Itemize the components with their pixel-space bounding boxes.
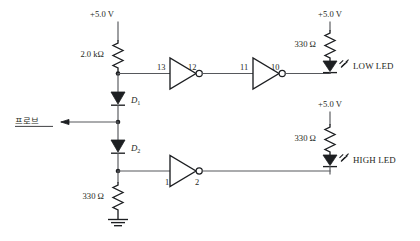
- diode-d1-label: D1: [130, 95, 140, 106]
- supply-label-top-left: +5.0 V: [90, 9, 115, 19]
- inverter-2-bubble-icon: [279, 70, 285, 76]
- inverter-1-input-pin-label: 13: [157, 63, 165, 72]
- resistor-high-led-series: [325, 124, 335, 155]
- led-low: [323, 60, 349, 74]
- inverter-3-input-pin-label: 1: [165, 178, 169, 187]
- resistor-low-led-series: [325, 30, 335, 61]
- resistor-high-led-series-label: 330 Ω: [295, 133, 316, 143]
- probe-label: 프로브: [15, 116, 39, 126]
- inverter-1-output-pin-label: 12: [188, 63, 196, 72]
- diode-d1: [111, 92, 125, 122]
- resistor-input-pullup: [113, 40, 123, 73]
- inverter-2-input-pin-label: 11: [240, 63, 248, 72]
- inverter-1: [170, 58, 202, 89]
- resistor-pulldown-label: 330 Ω: [83, 191, 104, 201]
- resistor-low-led-series-label: 330 Ω: [295, 39, 316, 49]
- diode-d2-label: D2: [130, 143, 140, 154]
- supply-label-mid-right: +5.0 V: [318, 99, 343, 109]
- ground-symbol: [108, 215, 128, 226]
- resistor-pulldown: [113, 182, 123, 215]
- led-low-label: LOW LED: [353, 61, 394, 71]
- inverter-2-output-pin-label: 10: [271, 63, 279, 72]
- inverter-3-bubble-icon: [196, 168, 202, 174]
- led-high-label: HIGH LED: [353, 155, 396, 165]
- inverter-1-bubble-icon: [196, 70, 202, 76]
- logic-probe-schematic: 프로브: [0, 0, 420, 241]
- inverter-3-output-pin-label: 2: [195, 178, 199, 187]
- supply-label-top-right: +5.0 V: [318, 9, 343, 19]
- inverter-2: [253, 58, 285, 89]
- schematic-canvas: 프로브: [0, 0, 420, 241]
- diode-d2: [111, 140, 125, 171]
- resistor-input-pullup-label: 2.0 kΩ: [80, 49, 104, 59]
- probe-wire: [61, 119, 118, 124]
